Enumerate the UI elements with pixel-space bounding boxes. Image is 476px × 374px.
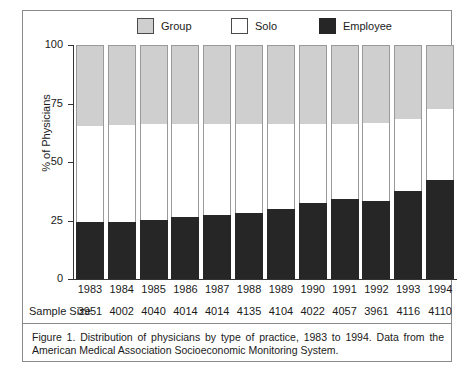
bar-1984 [108, 45, 136, 279]
bar-segment-employee-1988 [235, 213, 263, 279]
bar-1994 [426, 45, 454, 279]
bar-segment-solo-1990 [299, 124, 327, 203]
bar-segment-group-1993 [394, 45, 422, 119]
bar-segment-group-1987 [203, 45, 231, 124]
figure-caption: Figure 1. Distribution of physicians by … [32, 331, 444, 357]
y-tick-label-25: 25 [23, 215, 63, 226]
bar-segment-group-1985 [140, 45, 168, 124]
bar-1989 [267, 45, 295, 279]
y-axis-title: % of Physicians [40, 63, 52, 203]
bar-segment-employee-1983 [76, 222, 104, 279]
bars-container [74, 45, 456, 279]
bar-1991 [331, 45, 359, 279]
caption-divider [23, 323, 451, 324]
bar-segment-solo-1989 [267, 124, 295, 209]
bar-segment-employee-1984 [108, 222, 136, 279]
bar-segment-solo-1983 [76, 126, 104, 222]
bar-segment-group-1986 [171, 45, 199, 124]
bar-segment-solo-1992 [362, 123, 390, 201]
y-tick-label-0: 0 [23, 273, 63, 284]
bar-segment-group-1988 [235, 45, 263, 124]
bar-1993 [394, 45, 422, 279]
bar-segment-solo-1988 [235, 124, 263, 213]
bar-segment-group-1984 [108, 45, 136, 125]
bar-1988 [235, 45, 263, 279]
bar-segment-employee-1990 [299, 203, 327, 279]
bar-1986 [171, 45, 199, 279]
bar-segment-group-1989 [267, 45, 295, 124]
bar-segment-solo-1991 [331, 124, 359, 199]
bar-segment-group-1992 [362, 45, 390, 123]
bar-1985 [140, 45, 168, 279]
bar-segment-employee-1991 [331, 199, 359, 279]
bar-segment-solo-1985 [140, 124, 168, 220]
bar-segment-employee-1992 [362, 201, 390, 279]
bar-segment-solo-1994 [426, 109, 454, 180]
sample-size-value-1994: 4110 [420, 305, 460, 317]
bar-segment-employee-1985 [140, 220, 168, 279]
bar-1990 [299, 45, 327, 279]
y-tick-label-100: 100 [23, 39, 63, 50]
bar-segment-group-1994 [426, 45, 454, 109]
x-axis-line [73, 279, 457, 280]
bar-segment-group-1991 [331, 45, 359, 124]
bar-segment-group-1983 [76, 45, 104, 126]
bar-segment-employee-1993 [394, 191, 422, 279]
bar-1992 [362, 45, 390, 279]
bar-segment-employee-1986 [171, 217, 199, 279]
bar-segment-employee-1994 [426, 180, 454, 279]
y-tick-0 [68, 279, 74, 280]
bar-1983 [76, 45, 104, 279]
chart-plot: % of Physicians 0255075100 1983198419851… [23, 11, 451, 361]
bar-segment-solo-1986 [171, 124, 199, 217]
bar-segment-solo-1984 [108, 125, 136, 222]
y-tick-label-50: 50 [23, 156, 63, 167]
bar-segment-group-1990 [299, 45, 327, 124]
bar-segment-solo-1987 [203, 124, 231, 215]
bar-segment-employee-1989 [267, 209, 295, 279]
bar-1987 [203, 45, 231, 279]
bar-segment-solo-1993 [394, 119, 422, 191]
y-tick-label-75: 75 [23, 98, 63, 109]
figure-panel: Group Solo Employee % of Physicians 0255… [22, 10, 452, 362]
bar-segment-employee-1987 [203, 215, 231, 279]
x-axis-label-1994: 1994 [420, 283, 460, 295]
